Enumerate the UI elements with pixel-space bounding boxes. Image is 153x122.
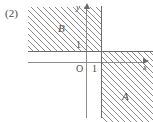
x-axis-label: x <box>143 62 147 72</box>
region-a-label: A <box>122 90 129 102</box>
figure-number-label: (2) <box>5 7 18 19</box>
region-b-label: B <box>58 22 65 34</box>
origin-label: O <box>76 63 83 74</box>
x-axis-tick-label-1: 1 <box>92 63 97 74</box>
y-axis-label: y <box>76 2 80 12</box>
y-axis-arrow-icon <box>84 3 90 9</box>
math-figure: (2) x y O 1 1 B A <box>0 0 153 122</box>
y-axis-tick-label-1: 1 <box>76 39 81 50</box>
horizontal-reference-line-y-equals-1 <box>28 51 153 52</box>
y-axis-line <box>86 8 87 118</box>
vertical-reference-line-x-equals-1 <box>101 6 102 118</box>
